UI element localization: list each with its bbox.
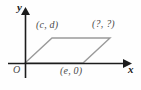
y-axis-arrowhead (21, 7, 30, 15)
vertex-label-top-left: (c, d) (36, 20, 58, 30)
vertex-label-bottom-right: (e, 0) (60, 66, 82, 76)
vertex-label-top-right: (?, ?) (92, 19, 115, 29)
coordinate-plane-figure: (c, d) (?, ?) (e, 0) O y x (0, 0, 141, 90)
diagram-canvas (0, 0, 141, 90)
y-axis-label: y (17, 2, 22, 13)
origin-label: O (13, 65, 20, 75)
x-axis-label: x (128, 64, 134, 75)
parallelogram-shape (25, 38, 110, 63)
